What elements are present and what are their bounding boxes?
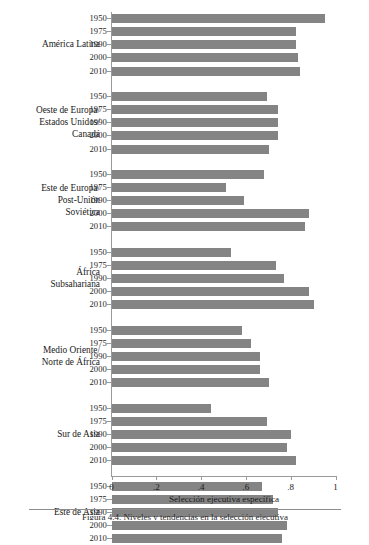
bar-row: 2010	[0, 376, 369, 389]
x-axis-tick	[201, 476, 202, 480]
bar-group: América Latina19501975199020002010	[0, 12, 369, 78]
bar	[112, 40, 296, 49]
year-tick-label: 1950	[67, 12, 107, 25]
bar-row: 2010	[0, 298, 369, 311]
year-tick-label: 2000	[67, 285, 107, 298]
bar-row: 2000	[0, 363, 369, 376]
year-tick-label: 1975	[67, 259, 107, 272]
year-tick-label: 2000	[67, 129, 107, 142]
bar	[112, 287, 309, 296]
bar	[112, 352, 260, 361]
bar-row: 2010	[0, 454, 369, 467]
year-tick-label: 2010	[67, 532, 107, 545]
year-tick-label: 1990	[67, 428, 107, 441]
bar	[112, 417, 267, 426]
year-tick-label: 1975	[67, 337, 107, 350]
bar-group: Oeste de Europa/Estados Unidos/Canadá195…	[0, 90, 369, 156]
year-tick-label: 2010	[67, 220, 107, 233]
bar-row: 1950	[0, 402, 369, 415]
bar	[112, 53, 298, 62]
bar-group: Este de Europa/Post-UniónSoviética195019…	[0, 168, 369, 234]
year-tick-label: 1950	[67, 324, 107, 337]
year-tick-label: 2000	[67, 519, 107, 532]
bar	[112, 118, 278, 127]
bar-row: 1990	[0, 272, 369, 285]
bar-row: 1975	[0, 337, 369, 350]
year-tick-label: 2010	[67, 298, 107, 311]
bar	[112, 261, 276, 270]
year-tick-label: 1950	[67, 402, 107, 415]
year-tick-label: 2010	[67, 65, 107, 78]
year-tick-label: 2000	[67, 441, 107, 454]
bar	[112, 456, 296, 465]
bar-row: 1975	[0, 25, 369, 38]
year-tick-label: 2000	[67, 207, 107, 220]
bar-group: Sur de Asia19501975199020002010	[0, 402, 369, 468]
bar-row: 1950	[0, 168, 369, 181]
year-tick-label: 1990	[67, 116, 107, 129]
x-axis-tick	[112, 476, 113, 480]
bar	[112, 404, 211, 413]
bar	[112, 131, 278, 140]
x-axis-tick-label: .8	[276, 482, 306, 492]
year-tick-label: 2000	[67, 363, 107, 376]
bar-row: 1975	[0, 415, 369, 428]
x-axis-tick	[156, 476, 157, 480]
bar-row: 1950	[0, 90, 369, 103]
bar-row: 2000	[0, 519, 369, 532]
x-axis-tick	[291, 476, 292, 480]
bar	[112, 534, 282, 543]
year-tick-label: 1950	[67, 90, 107, 103]
x-axis-tick-label: 0	[97, 482, 127, 492]
x-axis-line	[111, 476, 337, 477]
footer-divider	[29, 509, 341, 510]
bar-row: 1950	[0, 324, 369, 337]
year-tick-label: 1975	[67, 103, 107, 116]
plot-area: América Latina19501975199020002010Oeste …	[0, 0, 369, 500]
bar-row: 1990	[0, 350, 369, 363]
bar-group: ÁfricaSubsahariana19501975199020002010	[0, 246, 369, 312]
bar	[112, 326, 242, 335]
x-axis-tick-label: .4	[186, 482, 216, 492]
bar	[112, 67, 300, 76]
bar	[112, 27, 296, 36]
year-tick-label: 1975	[67, 415, 107, 428]
year-tick-label: 1990	[67, 38, 107, 51]
figure-caption-text: Figura 4.4. Niveles y tendencias en la s…	[29, 512, 341, 520]
bar-row: 2000	[0, 207, 369, 220]
bar	[112, 145, 269, 154]
bar-row: 1975	[0, 181, 369, 194]
bar	[112, 521, 287, 530]
year-tick-label: 2000	[67, 51, 107, 64]
x-axis-title: Selección ejecutiva específica	[111, 494, 337, 504]
bar-row: 1990	[0, 38, 369, 51]
bar-row: 1990	[0, 194, 369, 207]
x-axis-tick-label: .6	[231, 482, 261, 492]
year-tick-label: 2010	[67, 454, 107, 467]
x-axis-tick	[246, 476, 247, 480]
bar	[112, 105, 278, 114]
bar-row: 2000	[0, 51, 369, 64]
bar-row: 1990	[0, 116, 369, 129]
bar-row: 2010	[0, 65, 369, 78]
bar-row: 2000	[0, 285, 369, 298]
year-tick-label: 1990	[67, 350, 107, 363]
bar	[112, 248, 231, 257]
bar-row: 2010	[0, 532, 369, 545]
year-tick-label: 1975	[67, 493, 107, 506]
bar	[112, 430, 291, 439]
year-tick-label: 1975	[67, 181, 107, 194]
bar-row: 2010	[0, 220, 369, 233]
bar-row: 1950	[0, 246, 369, 259]
bar-row: 2000	[0, 441, 369, 454]
year-tick-label: 1990	[67, 194, 107, 207]
bar	[112, 196, 244, 205]
bar	[112, 14, 325, 23]
year-tick-label: 2010	[67, 376, 107, 389]
bar	[112, 378, 269, 387]
year-tick-label: 1950	[67, 246, 107, 259]
x-axis-tick	[336, 476, 337, 480]
bar	[112, 222, 305, 231]
figure-caption: Figura 4.4. Niveles y tendencias en la s…	[29, 512, 341, 520]
